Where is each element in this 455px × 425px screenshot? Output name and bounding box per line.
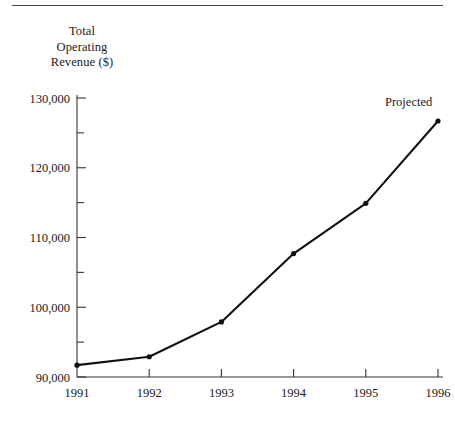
y-axis: 90,000100,000110,000120,000130,000: [29, 92, 86, 385]
y-axis-tick-label: 120,000: [29, 161, 70, 175]
x-axis-tick-label: 1993: [209, 386, 234, 400]
data-point-marker: [363, 201, 368, 206]
data-point-marker: [74, 363, 79, 368]
x-axis-ticks: [149, 369, 438, 377]
data-series-group: [74, 118, 440, 367]
revenue-data-points: [74, 118, 440, 367]
data-point-marker: [435, 118, 440, 123]
y-axis-tick-labels: 90,000100,000110,000120,000130,000: [29, 92, 70, 385]
x-axis-tick-label: 1992: [137, 386, 162, 400]
revenue-line: [77, 121, 438, 365]
x-axis-tick-label: 1996: [426, 386, 451, 400]
x-axis: 199119921993199419951996: [65, 369, 451, 400]
y-axis-tick-label: 130,000: [29, 92, 70, 106]
y-axis-tick-label: 90,000: [36, 371, 70, 385]
x-axis-tick-labels: 199119921993199419951996: [65, 386, 451, 400]
y-axis-tick-label: 110,000: [30, 231, 70, 245]
data-point-marker: [219, 319, 224, 324]
data-point-marker: [291, 251, 296, 256]
line-chart-plot: 90,000100,000110,000120,000130,000 19911…: [0, 0, 455, 425]
data-point-marker: [147, 354, 152, 359]
chart-figure: Total Operating Revenue ($) Projected 90…: [0, 0, 455, 425]
y-axis-tick-label: 100,000: [29, 301, 70, 315]
x-axis-tick-label: 1994: [281, 386, 307, 400]
y-axis-ticks: [77, 98, 86, 377]
x-axis-tick-label: 1995: [353, 386, 378, 400]
x-axis-tick-label: 1991: [65, 386, 90, 400]
